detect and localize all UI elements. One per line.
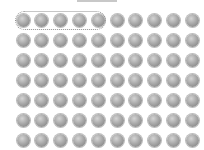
grouping-outline	[15, 11, 106, 30]
dot	[92, 114, 105, 127]
dot	[129, 54, 142, 67]
dot	[111, 34, 124, 47]
dot	[186, 94, 199, 107]
dot	[73, 74, 86, 87]
dot	[186, 134, 199, 147]
dot	[111, 54, 124, 67]
dot	[148, 34, 161, 47]
dot	[17, 94, 30, 107]
dot	[73, 134, 86, 147]
dot	[54, 94, 67, 107]
dot	[129, 14, 142, 27]
dot	[73, 94, 86, 107]
dot	[167, 74, 180, 87]
dot	[17, 34, 30, 47]
dot	[111, 114, 124, 127]
dot	[129, 94, 142, 107]
dot	[92, 74, 105, 87]
dot	[129, 134, 142, 147]
dot	[148, 94, 161, 107]
dot	[111, 74, 124, 87]
dot	[92, 54, 105, 67]
dot	[186, 74, 199, 87]
dot	[186, 34, 199, 47]
dot	[186, 114, 199, 127]
dot	[35, 134, 48, 147]
dot	[186, 54, 199, 67]
dot	[73, 114, 86, 127]
dot	[92, 134, 105, 147]
dot	[17, 134, 30, 147]
dot	[129, 74, 142, 87]
dot	[17, 114, 30, 127]
dot	[54, 74, 67, 87]
dot	[148, 14, 161, 27]
dot	[148, 74, 161, 87]
dot	[54, 114, 67, 127]
dot	[17, 74, 30, 87]
dot	[111, 14, 124, 27]
dot	[54, 54, 67, 67]
dot	[35, 54, 48, 67]
dot	[148, 54, 161, 67]
dot	[129, 114, 142, 127]
dot	[148, 114, 161, 127]
dot	[35, 34, 48, 47]
dot	[129, 34, 142, 47]
dot	[73, 54, 86, 67]
dot	[17, 54, 30, 67]
dot	[54, 134, 67, 147]
dot	[186, 14, 199, 27]
dot	[35, 114, 48, 127]
dot	[73, 34, 86, 47]
dot	[167, 114, 180, 127]
dot	[167, 54, 180, 67]
dot	[92, 94, 105, 107]
dot	[35, 94, 48, 107]
dot	[167, 94, 180, 107]
dot	[167, 14, 180, 27]
dot	[35, 74, 48, 87]
dot	[148, 134, 161, 147]
dot	[92, 34, 105, 47]
dot	[111, 94, 124, 107]
dot	[54, 34, 67, 47]
dot	[167, 34, 180, 47]
dot	[167, 134, 180, 147]
dot	[111, 134, 124, 147]
